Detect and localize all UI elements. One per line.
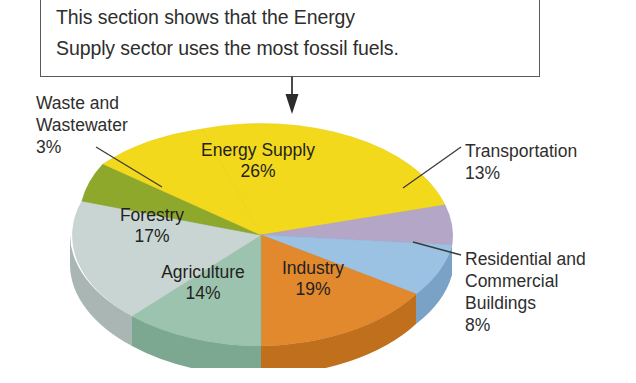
slice-label-transportation: Transportation 13% bbox=[465, 140, 577, 184]
slice-label-waste-wastewater: Waste and Wastewater 3% bbox=[36, 92, 128, 158]
callout-text: This section shows that the Energy Suppl… bbox=[56, 2, 534, 64]
slice-label-residential-commercial: Residential and Commercial Buildings 8% bbox=[465, 248, 586, 336]
